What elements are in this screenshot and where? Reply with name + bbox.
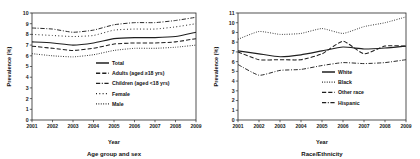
x-tick-label: 2008 — [170, 123, 181, 129]
panel-subtitle: Age group and sex — [87, 151, 142, 157]
legend-label: Other race — [338, 89, 364, 95]
y-tick-label: 7 — [232, 49, 235, 55]
series-line-male — [32, 45, 196, 57]
x-tick-label: 2003 — [67, 123, 78, 129]
legend-label: White — [338, 69, 352, 75]
y-tick-label: 3 — [232, 88, 235, 94]
x-tick-label: 2004 — [295, 123, 306, 129]
y-tick-label: 10 — [229, 20, 235, 26]
x-tick-label: 2005 — [316, 123, 327, 129]
legend-label: Hispanic — [338, 100, 360, 106]
legend-label: Total — [112, 60, 125, 66]
x-tick-label: 2001 — [232, 123, 243, 129]
y-tick-label: 8 — [232, 39, 235, 45]
series-line-black — [238, 17, 406, 39]
y-tick-label: 6 — [26, 53, 29, 59]
legend-label: Female — [112, 91, 130, 97]
x-axis-title: Year — [108, 139, 121, 145]
y-tick-label: 2 — [26, 96, 29, 102]
x-tick-label: 2004 — [88, 123, 99, 129]
x-tick-label: 2007 — [358, 123, 369, 129]
x-tick-label: 2008 — [379, 123, 390, 129]
y-tick-label: 6 — [232, 59, 235, 65]
y-tick-label: 4 — [26, 74, 29, 80]
chart-age-group-and-sex: 0123456789102001200220032004200520062007… — [0, 0, 210, 159]
legend-label: Adults (aged ≥18 yrs) — [112, 70, 165, 76]
x-tick-label: 2007 — [149, 123, 160, 129]
y-tick-label: 11 — [229, 10, 235, 16]
x-tick-label: 2002 — [253, 123, 264, 129]
y-tick-label: 2 — [232, 97, 235, 103]
series-line-white — [238, 46, 406, 57]
x-axis-title: Year — [316, 139, 329, 145]
legend-label: Children (aged <18 yrs) — [112, 80, 170, 86]
x-tick-label: 2006 — [337, 123, 348, 129]
y-tick-label: 4 — [232, 78, 235, 84]
x-tick-label: 2006 — [129, 123, 140, 129]
panel-race-ethnicity: 0123456789101120012002200320042005200620… — [210, 0, 420, 159]
y-tick-label: 1 — [26, 106, 29, 112]
y-tick-label: 0 — [26, 117, 29, 123]
y-tick-label: 0 — [232, 117, 235, 123]
y-tick-label: 9 — [232, 29, 235, 35]
x-tick-label: 2009 — [400, 123, 411, 129]
y-tick-label: 7 — [26, 42, 29, 48]
plot-frame — [238, 13, 406, 120]
series-line-adults-aged-18-yrs — [32, 39, 196, 51]
series-line-hispanic — [238, 60, 406, 76]
series-line-female — [32, 24, 196, 37]
y-axis-title: Prevalence (%) — [6, 46, 12, 86]
y-tick-label: 1 — [232, 107, 235, 113]
figure-container: 0123456789102001200220032004200520062007… — [0, 0, 420, 159]
y-tick-label: 5 — [232, 68, 235, 74]
chart-race-ethnicity: 0123456789101120012002200320042005200620… — [210, 0, 420, 159]
legend-label: Male — [112, 101, 124, 107]
y-tick-label: 9 — [26, 21, 29, 27]
x-tick-label: 2001 — [26, 123, 37, 129]
series-line-total — [32, 32, 196, 45]
y-tick-label: 8 — [26, 31, 29, 37]
panel-age-group-and-sex: 0123456789102001200220032004200520062007… — [0, 0, 210, 159]
y-tick-label: 10 — [23, 10, 29, 16]
x-tick-label: 2002 — [47, 123, 58, 129]
x-tick-label: 2005 — [108, 123, 119, 129]
y-tick-label: 3 — [26, 85, 29, 91]
legend-label: Black — [338, 79, 352, 85]
y-tick-label: 5 — [26, 63, 29, 69]
x-tick-label: 2003 — [274, 123, 285, 129]
x-tick-label: 2009 — [190, 123, 201, 129]
y-axis-title: Prevalence (%) — [213, 46, 219, 86]
panel-subtitle: Race/Ethnicity — [301, 151, 343, 157]
